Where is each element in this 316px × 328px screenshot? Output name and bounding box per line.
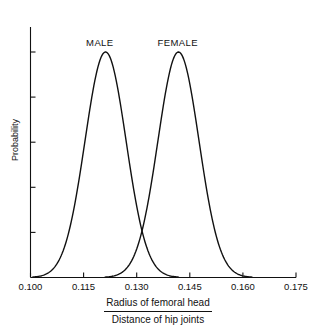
x-axis-tick-label: 0.115 (72, 281, 95, 292)
x-axis-tick-label: 0.130 (125, 281, 149, 292)
x-axis-title: Radius of femoral head Distance of hip j… (0, 296, 316, 327)
curve-female (105, 52, 252, 277)
probability-distribution-chart: MALE FEMALE Probability 0.1000.1150.1300… (0, 0, 316, 328)
x-axis-tick-label: 0.175 (284, 281, 308, 292)
x-axis-tick-label: 0.145 (178, 281, 202, 292)
x-axis-tick-label: 0.100 (19, 281, 43, 292)
x-axis-tick-label: 0.160 (231, 281, 255, 292)
x-axis-title-numerator: Radius of femoral head (104, 296, 211, 312)
x-axis-title-fraction: Radius of femoral head Distance of hip j… (104, 296, 211, 326)
curve-male (33, 52, 179, 277)
y-axis-ticks (31, 52, 36, 232)
axes-group (31, 27, 297, 278)
chart-plot-area (0, 0, 316, 328)
series-label-male: MALE (86, 37, 113, 48)
x-axis-tick-labels: 0.1000.1150.1300.1450.1600.175 (0, 281, 316, 295)
series-label-female: FEMALE (157, 37, 197, 48)
y-axis-title: Probability (10, 100, 20, 180)
x-axis-title-denominator: Distance of hip joints (104, 312, 211, 327)
